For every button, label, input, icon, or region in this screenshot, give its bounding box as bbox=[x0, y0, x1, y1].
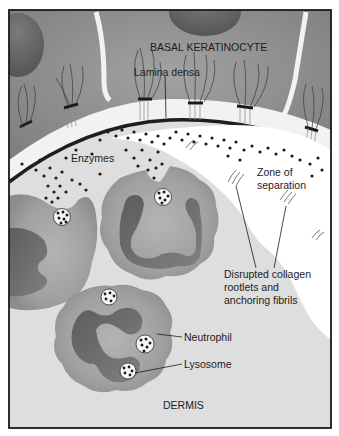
lysosome bbox=[101, 289, 117, 305]
label-disrupted-collagen: Disrupted collagen rootlets and anchorin… bbox=[224, 268, 311, 307]
label-lysosome: Lysosome bbox=[184, 358, 231, 371]
label-neutrophil: Neutrophil bbox=[184, 331, 232, 344]
label-lamina-densa: Lamina densa bbox=[134, 66, 200, 79]
label-enzymes: Enzymes bbox=[71, 152, 114, 165]
label-zone-of-separation: Zone of separation bbox=[257, 166, 306, 192]
label-dermis: DERMIS bbox=[163, 399, 204, 412]
lysosome bbox=[136, 335, 154, 353]
lysosome bbox=[120, 363, 136, 379]
lysosome bbox=[54, 209, 71, 226]
lysosome bbox=[155, 189, 172, 206]
diagram-figure: BASAL KERATINOCYTE Lamina densa Enzymes … bbox=[0, 0, 339, 436]
label-basal-keratinocyte: BASAL KERATINOCYTE bbox=[150, 41, 267, 54]
